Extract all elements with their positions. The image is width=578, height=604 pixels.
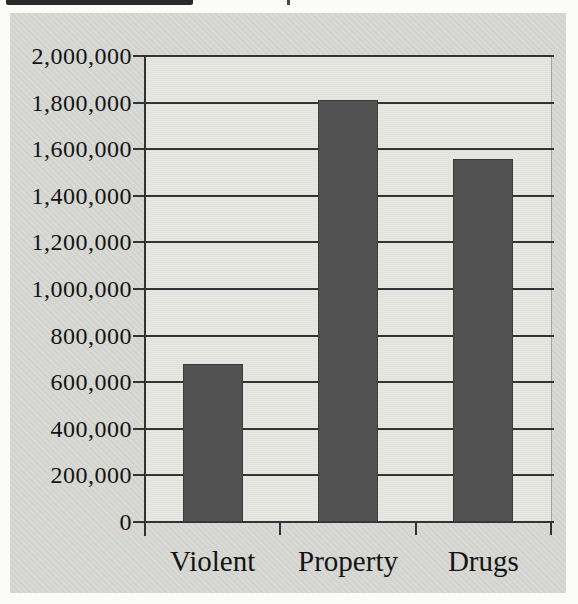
bar-chart-panel: 0200,000400,000600,000800,0001,000,0001,… [10, 13, 566, 593]
cropped-text-fragment [287, 0, 290, 5]
x-axis-label: Drugs [408, 545, 558, 577]
cropped-header-bar-fragment [6, 0, 193, 5]
x-axis-tick [279, 522, 281, 535]
gridline [145, 55, 554, 57]
x-axis-tick [550, 522, 552, 535]
y-axis-tick-label: 1,800,000 [10, 89, 132, 117]
bar [183, 364, 243, 522]
y-axis-tick-label: 800,000 [10, 322, 132, 350]
y-axis-tick-label: 1,000,000 [10, 275, 132, 303]
y-axis-tick-label: 400,000 [10, 415, 132, 443]
y-axis-tick-label: 600,000 [10, 368, 132, 396]
y-axis-tick-label: 1,200,000 [10, 228, 132, 256]
y-axis-tick-label: 2,000,000 [10, 42, 132, 70]
y-axis-line [144, 56, 146, 536]
x-axis-label: Violent [138, 545, 288, 577]
y-axis-tick-label: 1,600,000 [10, 135, 132, 163]
x-axis-label: Property [273, 545, 423, 577]
y-axis-tick-label: 200,000 [10, 461, 132, 489]
x-axis-tick [415, 522, 417, 535]
y-axis-tick-label: 1,400,000 [10, 182, 132, 210]
bar [318, 100, 378, 522]
bar [453, 159, 513, 522]
y-axis-tick-label: 0 [10, 508, 132, 536]
x-axis-tick [144, 522, 146, 535]
